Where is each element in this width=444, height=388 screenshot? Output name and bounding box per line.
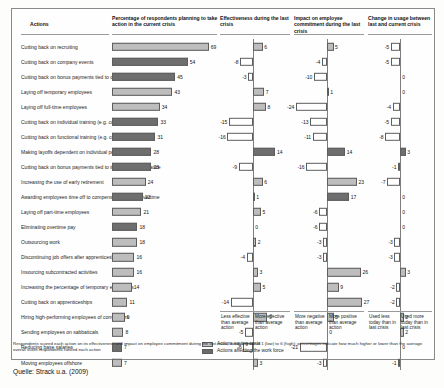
bar-cell-imp: -3 <box>294 235 364 250</box>
bar-imp <box>327 87 329 95</box>
bar-cell-imp: -4 <box>294 54 364 69</box>
bar-value-eff: 7 <box>266 89 269 95</box>
zero-axis-chg <box>400 220 401 235</box>
bar-cell-eff: -9 <box>220 159 290 174</box>
bar-value-imp: -10 <box>305 74 312 80</box>
source-caption: Quelle: Strack u.a. (2009) <box>13 368 88 375</box>
bar-cell-pct: 45 <box>112 69 216 84</box>
bar-pct <box>112 118 158 126</box>
bar-value-chg: -5 <box>385 59 389 65</box>
zero-axis-eff <box>253 220 254 235</box>
bar-cell-pct: 31 <box>112 129 216 144</box>
header-impact: Impact on employee commitment during the… <box>294 15 364 34</box>
bar-pct <box>112 87 172 95</box>
bar-pct <box>112 133 155 141</box>
bar-value-chg: -5 <box>385 44 389 50</box>
bar-cell-imp: 26 <box>294 265 364 280</box>
bar-value-eff: 3 <box>259 269 262 275</box>
bar-cell-pct: 16 <box>112 265 216 280</box>
bar-eff <box>247 253 253 261</box>
bar-imp <box>319 208 327 216</box>
bar-cell-chg: -2 <box>368 280 432 295</box>
table-row: Cutting back on company events54-8-4-5 <box>12 54 434 69</box>
bar-value-eff: 8 <box>267 104 270 110</box>
bar-cell-pct: 7 <box>112 355 216 370</box>
bar-pct <box>112 148 151 156</box>
bar-imp <box>314 72 327 80</box>
bar-eff <box>253 178 263 186</box>
bar-value-imp: 23 <box>359 179 365 185</box>
bar-value-pct: 14 <box>134 284 140 290</box>
table-row: Cutting back on individual training (e.g… <box>12 114 434 129</box>
bar-value-chg: 3 <box>407 149 410 155</box>
bar-cell-pct: 69 <box>112 39 216 54</box>
bar-value-eff: -15 <box>220 119 227 125</box>
bar-cell-chg: 0 <box>368 189 432 204</box>
bar-value-pct: 45 <box>177 74 183 80</box>
zero-axis-imp <box>327 69 328 84</box>
table-row: Increasing the use of early retirement24… <box>12 174 434 189</box>
header-rule-effectiveness <box>220 34 290 35</box>
zero-axis-imp <box>327 355 328 370</box>
bar-cell-imp: 5 <box>294 39 364 54</box>
bar-value-chg: 0 <box>402 74 405 80</box>
table-row: Making layoffs dependent on individual p… <box>12 144 434 159</box>
bar-value-eff: -14 <box>222 299 229 305</box>
bar-chg <box>396 298 400 306</box>
bar-cell-imp: 14 <box>294 144 364 159</box>
bar-value-imp: 1 <box>330 89 333 95</box>
bar-eff <box>253 268 258 276</box>
bar-value-imp: 5 <box>335 44 338 50</box>
bar-pct <box>112 238 137 246</box>
bar-cell-eff: 7 <box>220 84 290 99</box>
bar-cell-chg: 0 <box>368 220 432 235</box>
zero-axis-chg <box>400 99 401 114</box>
bar-value-chg: 0 <box>402 209 405 215</box>
bar-value-chg: 3 <box>407 269 410 275</box>
bar-cell-eff: -8 <box>220 54 290 69</box>
bar-value-eff: 0 <box>255 224 258 230</box>
bar-value-chg: 0 <box>402 194 405 200</box>
table-row: Laying off full-time employees348-24-4 <box>12 99 434 114</box>
table-row: Laying off temporary employees43710 <box>12 84 434 99</box>
bar-value-chg: -8 <box>379 134 383 140</box>
bar-cell-imp: 23 <box>294 174 364 189</box>
bar-value-eff: -16 <box>219 134 226 140</box>
bar-chg <box>393 103 400 111</box>
bar-value-eff: -8 <box>234 59 238 65</box>
bar-cell-eff: 6 <box>220 174 290 189</box>
bar-cell-chg: -3 <box>368 235 432 250</box>
bar-cell-pct: 22 <box>112 189 216 204</box>
bar-imp <box>327 298 362 306</box>
axcap-rule-eff <box>220 311 290 312</box>
bar-value-chg: -7 <box>381 179 385 185</box>
zero-axis-imp <box>327 159 328 174</box>
bar-cell-pct: 21 <box>112 205 216 220</box>
footnote: Respondents scored each action on its ef… <box>13 341 431 352</box>
table-row: Insourcing subcontracted activities16326… <box>12 265 434 280</box>
bar-cell-chg: -8 <box>368 129 432 144</box>
bar-cell-eff: -4 <box>220 250 290 265</box>
bar-imp <box>323 238 327 246</box>
bar-value-pct: 18 <box>139 239 145 245</box>
zero-axis-imp <box>327 235 328 250</box>
bar-eff <box>239 163 253 171</box>
bar-value-pct: 34 <box>162 104 168 110</box>
table-row: Cutting back on functional training (e.g… <box>12 129 434 144</box>
bar-pct <box>112 163 151 171</box>
bar-cell-chg: 3 <box>368 265 432 280</box>
bar-value-pct: 54 <box>190 59 196 65</box>
bar-pct <box>112 72 175 80</box>
header-rule-impact <box>294 34 364 35</box>
bar-value-eff: 5 <box>263 284 266 290</box>
bar-value-imp: -4 <box>316 59 320 65</box>
bar-value-pct: 28 <box>153 149 159 155</box>
bar-cell-imp: -10 <box>294 69 364 84</box>
bar-cell-chg: 0 <box>368 69 432 84</box>
action-label: Discontinuing job offers after apprentic… <box>21 254 121 260</box>
bar-imp <box>327 193 349 201</box>
bar-value-imp: -6 <box>313 224 317 230</box>
bar-cell-eff: -16 <box>220 129 290 144</box>
bar-imp <box>327 148 345 156</box>
bar-cell-eff: 2 <box>220 235 290 250</box>
